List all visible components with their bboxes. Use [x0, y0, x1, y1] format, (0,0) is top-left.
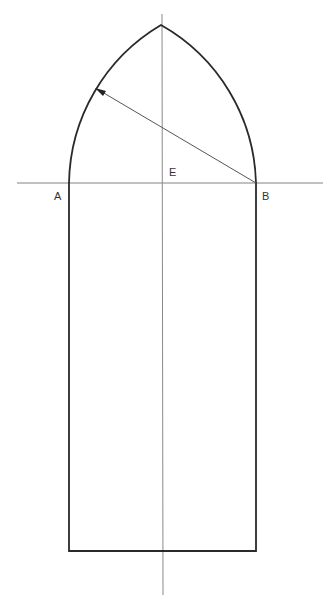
pointed-arch-diagram	[0, 0, 334, 607]
arrow-head-icon	[95, 88, 106, 96]
label-a: A	[54, 190, 61, 202]
radius-line	[97, 89, 256, 183]
center-axis-line	[162, 14, 163, 595]
label-e: E	[169, 166, 176, 178]
label-b: B	[262, 190, 269, 202]
